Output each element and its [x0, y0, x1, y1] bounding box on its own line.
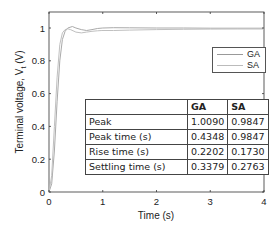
legend-label-ga: GA: [247, 49, 260, 60]
x-tick-label: 2: [154, 196, 159, 207]
legend-item-sa: SA: [213, 60, 265, 71]
x-tick-label: 1: [100, 196, 105, 207]
metric-label: Settling time (s): [86, 160, 188, 175]
y-axis-label: Terminal voltage, Vt (V): [14, 50, 27, 153]
sa-value: 0.2763: [228, 160, 268, 175]
table-row: Rise time (s) 0.2202 0.1730: [86, 145, 269, 160]
y-tick-label: 0.6: [32, 88, 45, 99]
metric-label: Peak: [86, 115, 188, 130]
y-tick-label: 1: [40, 23, 45, 34]
metric-label: Peak time (s): [86, 130, 188, 145]
legend-line-sa: [217, 65, 243, 66]
table-header-row: GA SA: [86, 100, 269, 115]
legend-line-ga: [217, 54, 243, 55]
table-row: Peak time (s) 0.4348 0.9847: [86, 130, 269, 145]
legend-item-ga: GA: [213, 49, 265, 60]
x-axis-label: Time (s): [138, 210, 174, 221]
ga-value: 1.0090: [188, 115, 228, 130]
sa-value: 0.9847: [228, 115, 268, 130]
table-row: Settling time (s) 0.3379 0.2763: [86, 160, 269, 175]
y-tick-label: 0.8: [32, 55, 45, 66]
x-tick-label: 4: [261, 196, 266, 207]
table-header-blank: [86, 100, 188, 115]
x-tick-label: 0: [46, 196, 51, 207]
ga-value: 0.2202: [188, 145, 228, 160]
sa-value: 0.9847: [228, 130, 268, 145]
performance-table: GA SA Peak 1.0090 0.9847 Peak time (s) 0…: [85, 99, 269, 175]
ga-value: 0.3379: [188, 160, 228, 175]
y-tick-label: 0.4: [32, 121, 45, 132]
y-tick-label: 0: [40, 187, 45, 198]
table-header-ga: GA: [188, 100, 228, 115]
metric-label: Rise time (s): [86, 145, 188, 160]
ga-value: 0.4348: [188, 130, 228, 145]
y-tick-label: 0.2: [32, 154, 45, 165]
chart-legend: GA SA: [212, 47, 266, 73]
table-row: Peak 1.0090 0.9847: [86, 115, 269, 130]
sa-value: 0.1730: [228, 145, 268, 160]
x-tick-label: 3: [208, 196, 213, 207]
table-header-sa: SA: [228, 100, 268, 115]
legend-label-sa: SA: [247, 60, 259, 71]
